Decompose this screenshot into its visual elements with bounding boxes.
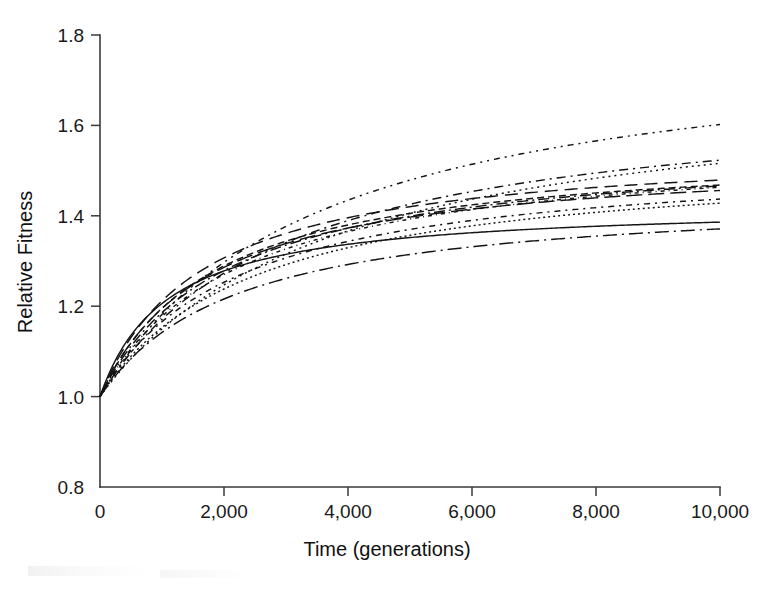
y-tick-label: 1.2 <box>58 296 84 317</box>
y-tick-label: 1.4 <box>58 206 85 227</box>
curve-population-1 <box>100 125 720 397</box>
x-tick-label: 6,000 <box>448 501 496 522</box>
x-tick-label: 8,000 <box>572 501 620 522</box>
y-axis-title: Relative Fitness <box>14 191 36 333</box>
y-axis-tick-labels: 0.81.01.21.41.61.8 <box>58 25 85 498</box>
axes-group <box>91 35 720 496</box>
x-axis-ticks <box>224 487 720 496</box>
curve-population-7 <box>100 187 720 396</box>
x-axis-title: Time (generations) <box>303 538 470 560</box>
curve-population-12 <box>100 229 720 397</box>
x-axis-tick-labels: 02,0004,0006,0008,00010,000 <box>95 501 749 522</box>
y-tick-label: 1.8 <box>58 25 84 46</box>
curve-population-11 <box>100 222 720 396</box>
curve-population-4 <box>100 180 720 397</box>
figure-container: 0.81.01.21.41.61.8 02,0004,0006,0008,000… <box>0 0 774 590</box>
relative-fitness-line-chart: 0.81.01.21.41.61.8 02,0004,0006,0008,000… <box>0 0 774 590</box>
x-tick-label: 10,000 <box>691 501 749 522</box>
y-axis-ticks <box>91 35 100 397</box>
x-tick-label: 2,000 <box>200 501 248 522</box>
x-tick-label: 4,000 <box>324 501 372 522</box>
x-tick-label: 0 <box>95 501 106 522</box>
y-tick-label: 1.0 <box>58 387 84 408</box>
curve-population-9 <box>100 199 720 397</box>
y-tick-label: 0.8 <box>58 477 84 498</box>
data-series-group <box>100 125 720 397</box>
curve-population-3 <box>100 163 720 396</box>
y-tick-label: 1.6 <box>58 115 84 136</box>
curve-population-8 <box>100 190 720 396</box>
